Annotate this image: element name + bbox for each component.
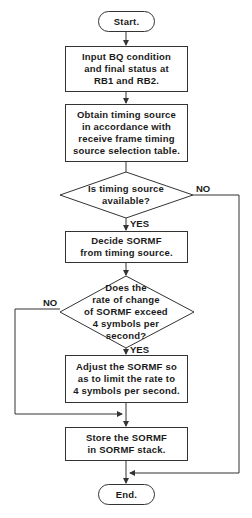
decision-rate-exceed: Does the rate of change of SORMF exceed … bbox=[72, 281, 180, 343]
step-label: Input BQ condition and final status at R… bbox=[82, 51, 171, 87]
decision-yes-label: YES bbox=[130, 219, 149, 229]
start-label: Start. bbox=[114, 16, 139, 28]
step-adjust-sormf: Adjust the SORMF so as to limit the rate… bbox=[65, 355, 188, 403]
step-label: Adjust the SORMF so as to limit the rate… bbox=[73, 361, 180, 397]
decision-no-label: NO bbox=[196, 184, 210, 194]
flowchart: Start. Input BQ condition and final stat… bbox=[0, 0, 252, 518]
decision-yes-label: YES bbox=[130, 345, 149, 355]
decision-label: Is timing source available? bbox=[88, 183, 164, 207]
decision-no-label: NO bbox=[43, 298, 57, 308]
decision-timing-available: Is timing source available? bbox=[70, 180, 182, 210]
end-terminal: End. bbox=[98, 484, 155, 505]
step-input-bq-condition: Input BQ condition and final status at R… bbox=[65, 46, 188, 92]
step-label: Obtain timing source in accordance with … bbox=[73, 109, 180, 157]
step-store-sormf: Store the SORMF in SORMF stack. bbox=[65, 427, 188, 461]
step-decide-sormf: Decide SORMF from timing source. bbox=[65, 231, 188, 263]
start-terminal: Start. bbox=[98, 11, 155, 32]
end-label: End. bbox=[116, 489, 137, 501]
step-label: Decide SORMF from timing source. bbox=[80, 235, 172, 259]
step-label: Store the SORMF in SORMF stack. bbox=[86, 432, 167, 456]
decision-label: Does the rate of change of SORMF exceed … bbox=[84, 282, 168, 342]
step-obtain-timing-source: Obtain timing source in accordance with … bbox=[65, 104, 188, 162]
